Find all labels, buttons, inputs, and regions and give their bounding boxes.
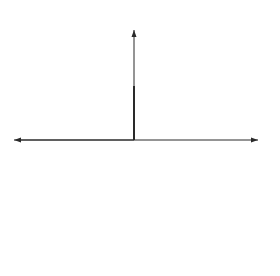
ellipse-orbit-diagram (0, 0, 280, 276)
